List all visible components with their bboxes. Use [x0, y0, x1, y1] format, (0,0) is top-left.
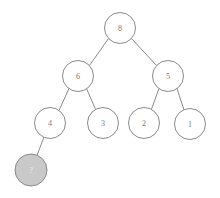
tree-canvas: 8654321?	[0, 0, 220, 198]
node-label: 8	[118, 24, 122, 33]
tree-node-4[interactable]: 4	[35, 108, 66, 139]
tree-edge-n6-n3	[87, 89, 97, 111]
tree-node-3[interactable]: 3	[88, 108, 119, 139]
tree-node-5[interactable]: 5	[153, 61, 184, 92]
node-label: 5	[166, 72, 170, 81]
node-label: 2	[142, 119, 146, 128]
node-label: 6	[76, 72, 80, 81]
tree-node-8[interactable]: 8	[105, 13, 136, 44]
tree-edge-n8-n6	[90, 39, 109, 66]
tree-edge-n8-n5	[132, 39, 157, 66]
tree-edge-n5-n2	[151, 89, 159, 111]
tree-edge-n5-n1	[177, 89, 185, 112]
tree-node-1[interactable]: 1	[175, 109, 206, 140]
edge-layer	[37, 39, 185, 156]
binary-tree-diagram: 8654321?	[0, 0, 220, 198]
node-label: ?	[29, 166, 33, 175]
tree-edge-n6-n4	[59, 89, 69, 111]
tree-node-unknown[interactable]: ?	[15, 154, 47, 186]
node-label: 4	[48, 119, 52, 128]
node-label: 1	[188, 120, 192, 129]
node-label: 3	[101, 119, 105, 128]
node-layer: 8654321?	[15, 13, 206, 187]
tree-node-2[interactable]: 2	[129, 108, 160, 139]
tree-node-6[interactable]: 6	[63, 61, 94, 92]
tree-edge-n4-n7	[37, 137, 44, 156]
